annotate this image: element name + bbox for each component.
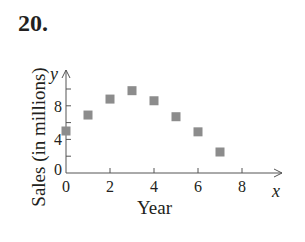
data-point — [128, 86, 137, 95]
data-point — [216, 148, 225, 157]
scatter-plot: 02468048yx — [0, 0, 305, 242]
data-point — [84, 111, 93, 120]
x-tick-label: 2 — [106, 178, 114, 195]
y-axis-variable: y — [48, 64, 58, 84]
y-tick-label: 4 — [54, 131, 62, 148]
x-tick-label: 4 — [150, 178, 158, 195]
x-axis-variable: x — [271, 181, 280, 201]
data-point — [62, 127, 71, 136]
data-point — [172, 112, 181, 121]
x-tick-label: 0 — [62, 178, 70, 195]
y-tick-label: 0 — [54, 161, 62, 178]
x-tick-label: 8 — [238, 178, 246, 195]
data-point — [150, 96, 159, 105]
x-tick-label: 6 — [194, 178, 202, 195]
y-tick-label: 8 — [54, 98, 62, 115]
data-point — [194, 127, 203, 136]
data-point — [106, 95, 115, 104]
